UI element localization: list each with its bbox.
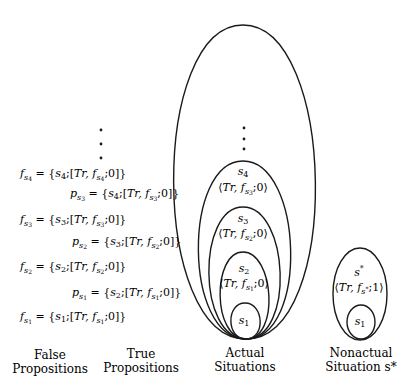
true-prop-s3: ps3 = {s4;[Tr, fs3;0]}	[70, 187, 179, 202]
s1-name: s1	[239, 314, 250, 328]
s4-fact: ⟨Tr, fs3;0⟩	[218, 181, 268, 196]
s4-name: s4	[238, 165, 249, 179]
false-prop-s1: fs1 = {s1;[Tr, fs1;0]}	[19, 310, 126, 325]
true-propositions-label-2: Propositions	[103, 361, 179, 375]
false-propositions-label-1: False	[34, 348, 66, 362]
s2-fact: ⟨Tr, fs1;0⟩	[219, 277, 269, 292]
true-prop-s1: ps1 = {s2;[Tr, fs1;0]}	[72, 286, 181, 301]
false-propositions-label-2: Propositions	[12, 362, 88, 376]
actual-situation-labels: s4 ⟨Tr, fs3;0⟩ s3 ⟨Tr, fs2;0⟩ s2 ⟨Tr, fs…	[218, 165, 383, 329]
false-prop-s3: fs3 = {s3;[Tr, fs3;0]}	[19, 213, 126, 228]
s2-name: s2	[239, 262, 250, 276]
s3-name: s3	[238, 212, 249, 226]
false-prop-s2: fs2 = {s2;[Tr, fs2;0]}	[19, 260, 126, 275]
actual-situations-label-2: Situations	[214, 360, 276, 374]
s-star-fact: ⟨Tr, fs*;1⟩	[335, 281, 384, 296]
nonactual-situation-label-1: Nonactual	[330, 346, 393, 360]
ellipsis-dots-left	[100, 129, 103, 160]
false-prop-s4: fs4 = {s4;[Tr, fs4;0]}	[19, 167, 126, 182]
true-propositions-label-1: True	[127, 347, 156, 361]
true-proposition-list: ps3 = {s4;[Tr, fs3;0]} ps2 = {s3;[Tr, fs…	[70, 187, 181, 301]
true-prop-s2: ps2 = {s3;[Tr, fs2;0]}	[72, 235, 181, 250]
nonactual-s1-name: s1	[355, 315, 366, 329]
s3-fact: ⟨Tr, fs2;0⟩	[218, 227, 268, 242]
s-star-name: s*	[354, 264, 364, 279]
situations-diagram: fs4 = {s4;[Tr, fs4;0]} fs3 = {s3;[Tr, fs…	[0, 0, 407, 392]
nonactual-situation-label-2: Situation s*	[325, 360, 396, 374]
ellipsis-dots-center	[243, 127, 246, 151]
actual-situations-label-1: Actual	[225, 346, 265, 360]
